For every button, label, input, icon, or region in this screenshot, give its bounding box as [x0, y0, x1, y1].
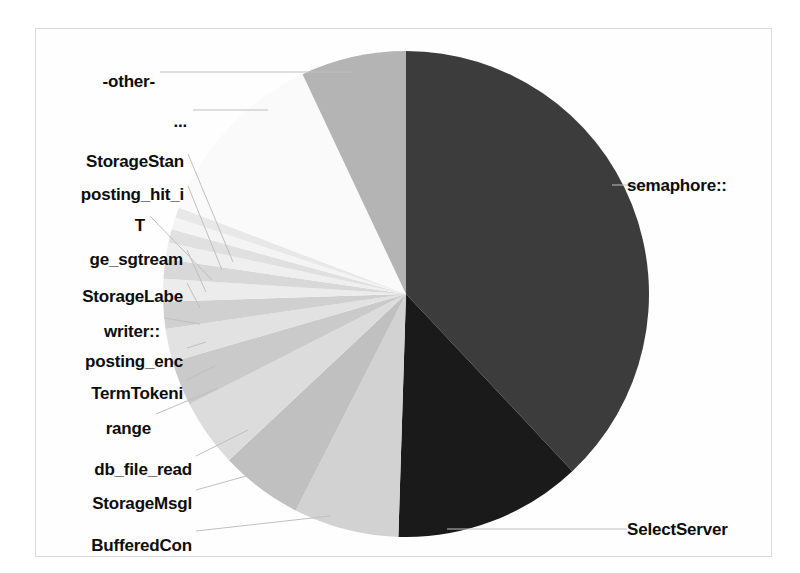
leader-line [196, 516, 330, 531]
pie-slice-label: posting_hit_i [81, 186, 184, 203]
pie-slice-label: ge_sgtream [90, 251, 183, 268]
pie-slice-label: writer:: [104, 323, 160, 340]
pie-slice-label: BufferedCon [91, 537, 192, 554]
pie-slice-label: StorageMsgl [92, 495, 192, 512]
pie-slice-label: ... [173, 113, 187, 130]
pie-slice-label: TermTokeni [91, 385, 183, 402]
pie-slice-label: semaphore:: [627, 177, 727, 194]
pie-slice-label: -other- [103, 73, 155, 90]
pie-slice-label: SelectServer [627, 521, 728, 538]
figure-canvas: semaphore::SelectServerBufferedConStorag… [0, 0, 800, 573]
pie-slices [163, 51, 649, 537]
pie-slice-label: StorageStan [86, 153, 184, 170]
pie-slice-label: StorageLabe [82, 288, 183, 305]
pie-slice-label: T [135, 217, 145, 234]
pie-slice-label: posting_enc [85, 353, 183, 370]
pie-slice-label: range [106, 420, 151, 437]
pie-slice-label: db_file_read [94, 461, 192, 478]
